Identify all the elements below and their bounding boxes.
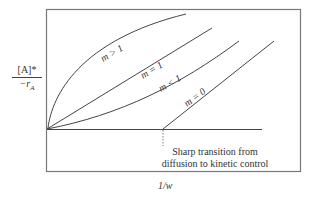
annotation-line-2: diffusion to kinetic control: [130, 158, 300, 170]
label-m-eq-0: m = 0: [182, 86, 208, 109]
label-m-eq-1: m = 1: [138, 59, 164, 81]
curve-m-eq-0: [163, 41, 274, 129]
curve-m-gt-1: [48, 14, 186, 128]
y-axis-numerator: [A]*: [12, 64, 42, 78]
y-axis-label: [A]* −rA: [12, 64, 42, 94]
y-axis-denominator-sub: A: [30, 84, 34, 92]
y-axis-denominator-main: −r: [20, 78, 31, 89]
label-m-lt-1: m < 1: [157, 72, 183, 94]
curve-m-eq-1: [47, 28, 212, 129]
annotation-line-1: Sharp transition from: [130, 146, 300, 158]
y-axis-denominator: −rA: [12, 78, 42, 94]
transition-annotation: Sharp transition from diffusion to kinet…: [130, 146, 300, 170]
curve-m-lt-1: [47, 41, 239, 129]
x-axis-label: 1/w: [158, 180, 172, 191]
label-m-gt-1: m > 1: [99, 42, 125, 64]
